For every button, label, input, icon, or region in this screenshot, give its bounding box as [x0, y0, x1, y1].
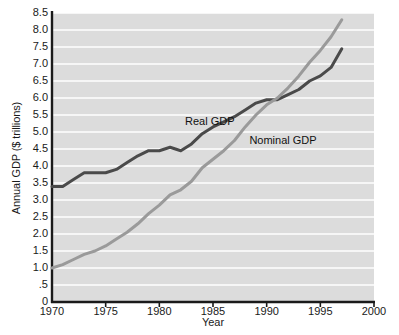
series-label-real-gdp: Real GDP [185, 115, 235, 127]
x-axis-title: Year [52, 316, 374, 328]
series-label-nominal-gdp: Nominal GDP [249, 134, 316, 146]
gdp-line-chart: Annual GDP ($ trillions) 0.51.01.52.02.5… [0, 0, 399, 335]
plot-area [0, 0, 399, 335]
